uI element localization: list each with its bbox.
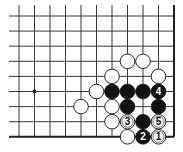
black-stone (136, 84, 151, 99)
black-stone-disc (120, 84, 135, 99)
white-stone-disc (120, 130, 135, 145)
white-stone-disc (89, 84, 104, 99)
white-stone-disc (74, 99, 89, 114)
white-stone (151, 69, 166, 84)
black-stone-disc (120, 99, 135, 114)
white-stone (136, 54, 151, 69)
move-number-label: 2 (140, 131, 146, 142)
move-number-label: 3 (125, 116, 131, 127)
white-stone-disc (105, 99, 120, 114)
black-stone (120, 84, 135, 99)
white-stone (120, 130, 135, 145)
white-stone-disc (105, 114, 120, 129)
grid-lines (9, 5, 174, 137)
white-stone (105, 99, 120, 114)
white-stone (120, 54, 135, 69)
go-board: 43521 (0, 0, 183, 152)
black-stone-disc (136, 84, 151, 99)
white-stone-disc (151, 69, 166, 84)
black-stone (105, 84, 120, 99)
white-stone (74, 99, 89, 114)
white-stone-5: 5 (151, 114, 166, 129)
white-stone (89, 84, 104, 99)
stones: 43521 (74, 54, 166, 144)
black-stone-disc (105, 84, 120, 99)
white-stone-disc (120, 54, 135, 69)
black-stone (151, 99, 166, 114)
move-number-label: 4 (156, 86, 162, 97)
black-stone (136, 114, 151, 129)
black-stone-disc (136, 114, 151, 129)
white-stone-3: 3 (120, 114, 135, 129)
white-stone (105, 114, 120, 129)
black-stone (120, 99, 135, 114)
black-stone-2: 2 (136, 130, 151, 145)
star-points (33, 90, 37, 94)
move-number-label: 1 (156, 131, 162, 142)
white-stone (105, 69, 120, 84)
star-point (33, 90, 37, 94)
black-stone-4: 4 (151, 84, 166, 99)
white-stone-1: 1 (151, 130, 166, 145)
move-number-label: 5 (156, 116, 162, 127)
black-stone-disc (151, 99, 166, 114)
white-stone-disc (105, 69, 120, 84)
white-stone-disc (136, 54, 151, 69)
